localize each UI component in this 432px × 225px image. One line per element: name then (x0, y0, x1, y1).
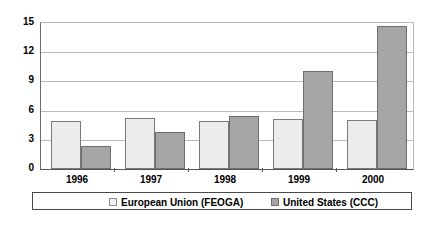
x-tick-mark (262, 168, 263, 172)
legend-swatch-us-icon (271, 198, 279, 206)
bar-group (121, 23, 195, 169)
legend-entry-european-union: European Union (FEOGA) (109, 195, 243, 209)
bar-us-1996 (81, 146, 111, 169)
bar-us-1998 (229, 116, 259, 169)
bar-eu-1996 (51, 121, 81, 169)
bar-us-1999 (303, 71, 333, 169)
bar-group (269, 23, 343, 169)
x-tick-label-1997: 1997 (114, 173, 188, 187)
bar-eu-1997 (125, 118, 155, 169)
y-tick-label: 9 (8, 75, 34, 85)
x-tick-mark (336, 168, 337, 172)
bar-group (343, 23, 417, 169)
bar-eu-2000 (347, 120, 377, 169)
bar-us-1997 (155, 132, 185, 169)
bar-us-2000 (377, 26, 407, 169)
legend-label-united-states: United States (CCC) (283, 197, 378, 208)
y-axis: 15 12 9 6 3 0 (4, 0, 34, 225)
bar-group (195, 23, 269, 169)
y-tick-label: 6 (8, 105, 34, 115)
bar-chart: 15 12 9 6 3 0 (0, 0, 432, 225)
x-tick-mark (188, 168, 189, 172)
bar-eu-1999 (273, 119, 303, 169)
legend-label-european-union: European Union (FEOGA) (121, 197, 243, 208)
chart-legend: European Union (FEOGA) United States (CC… (32, 192, 412, 210)
x-tick-label-1996: 1996 (40, 173, 114, 187)
bar-group (47, 23, 121, 169)
y-tick-label: 12 (8, 46, 34, 56)
y-tick-label: 0 (8, 163, 34, 173)
x-tick-label-1999: 1999 (262, 173, 336, 187)
y-tick-label: 3 (8, 134, 34, 144)
x-tick-label-2000: 2000 (336, 173, 410, 187)
x-tick-mark (114, 168, 115, 172)
x-tick-label-1998: 1998 (188, 173, 262, 187)
legend-swatch-eu-icon (109, 198, 117, 206)
plot-area (40, 22, 414, 170)
y-tick-label: 15 (8, 17, 34, 27)
bar-eu-1998 (199, 121, 229, 169)
legend-entry-united-states: United States (CCC) (271, 195, 378, 209)
x-axis: 1996 1997 1998 1999 2000 (40, 173, 412, 189)
